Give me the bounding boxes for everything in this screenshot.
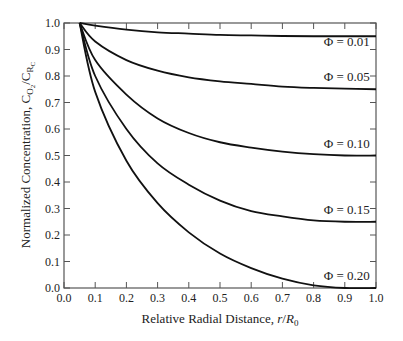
y-tick-label: 0.4 [45, 175, 60, 189]
x-tick-label: 1.0 [369, 291, 384, 305]
y-axis-label: Normalized Concentration, CO2/CRC [18, 61, 37, 248]
x-tick-label: 0.7 [275, 291, 290, 305]
y-tick-label: 1.0 [45, 16, 60, 30]
y-tick-label: 0.2 [45, 228, 60, 242]
curve-label: Φ = 0.10 [324, 136, 370, 151]
x-axis-label: Relative Radial Distance, r/R0 [142, 311, 299, 328]
x-tick-label: 0.0 [57, 291, 72, 305]
curve-label: Φ = 0.20 [324, 268, 370, 283]
x-tick-label: 0.1 [88, 291, 103, 305]
x-tick-label: 0.4 [181, 291, 196, 305]
y-tick-label: 0.9 [45, 43, 60, 57]
x-tick-label: 0.8 [306, 291, 321, 305]
x-tick-label: 0.6 [244, 291, 259, 305]
y-tick-label: 0.6 [45, 122, 60, 136]
curve-label: Φ = 0.01 [324, 34, 370, 49]
x-tick-label: 0.2 [119, 291, 134, 305]
curve-label: Φ = 0.15 [324, 202, 370, 217]
y-tick-label: 0.7 [45, 96, 60, 110]
curve-label: Φ = 0.05 [324, 69, 370, 84]
y-tick-label: 0.8 [45, 69, 60, 83]
curve-labels: Φ = 0.01Φ = 0.05Φ = 0.10Φ = 0.15Φ = 0.20 [324, 34, 370, 284]
y-tick-label: 0.3 [45, 202, 60, 216]
y-tick-label: 0.5 [45, 149, 60, 163]
x-tick-label: 0.3 [150, 291, 165, 305]
x-tick-label: 0.9 [337, 291, 352, 305]
x-tick-label: 0.5 [213, 291, 228, 305]
x-axis-ticks: 0.00.10.20.30.40.50.60.70.80.91.0 [57, 23, 384, 305]
curves [80, 23, 376, 288]
concentration-chart: 0.00.10.20.30.40.50.60.70.80.91.0 0.00.1… [0, 0, 403, 341]
curve [80, 23, 376, 222]
y-tick-label: 0.1 [45, 255, 60, 269]
